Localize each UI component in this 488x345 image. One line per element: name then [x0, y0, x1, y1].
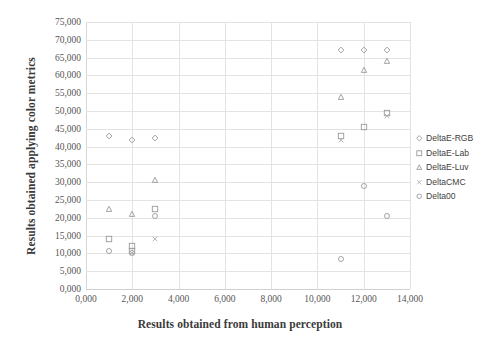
y-axis-tick-label: 20,000	[55, 213, 81, 223]
y-axis-tick-label: 55,000	[55, 88, 81, 98]
x-axis-line	[86, 289, 410, 290]
gridline-horizontal	[86, 147, 410, 148]
chart-root: Results obtained applying color metrics …	[0, 0, 488, 345]
data-point-circle	[383, 213, 390, 220]
gridline-vertical	[364, 22, 365, 289]
data-point-circle	[337, 255, 344, 262]
y-axis-tick-label: 50,000	[55, 106, 81, 116]
y-axis-tick-label: 30,000	[55, 177, 81, 187]
data-point-circle	[106, 247, 113, 254]
data-point-square	[152, 205, 159, 212]
gridline-horizontal	[86, 111, 410, 112]
triangle-marker-icon	[414, 162, 425, 173]
y-axis-tick-label: 5,000	[60, 266, 81, 276]
gridline-vertical	[271, 22, 272, 289]
data-point-circle	[152, 213, 159, 220]
data-point-triangle	[383, 58, 390, 65]
gridline-horizontal	[86, 75, 410, 76]
gridline-horizontal	[86, 22, 410, 23]
gridline-vertical	[410, 22, 411, 289]
gridline-vertical	[317, 22, 318, 289]
plot-area: 0,0005,00010,00015,00020,00025,00030,000…	[86, 22, 410, 289]
data-point-diamond	[360, 47, 367, 54]
diamond-marker-icon	[414, 133, 425, 144]
data-point-circle	[360, 182, 367, 189]
x-axis-tick-label: 14,000	[397, 294, 423, 304]
data-point-circle	[129, 250, 136, 257]
x-axis-tick-label: 2,000	[122, 294, 143, 304]
x-axis-tick-label: 6,000	[214, 294, 235, 304]
y-axis-tick-label: 25,000	[55, 195, 81, 205]
data-point-triangle	[106, 205, 113, 212]
x-axis-tick-label: 10,000	[304, 294, 330, 304]
legend-item-deltae-lab[interactable]: DeltaE-Lab	[414, 146, 473, 161]
legend: DeltaE-RGBDeltaE-LabDeltaE-LuvDeltaCMCDe…	[414, 131, 473, 204]
gridline-vertical	[225, 22, 226, 289]
data-point-cross	[383, 113, 390, 120]
data-point-diamond	[337, 47, 344, 54]
y-axis-line	[86, 22, 87, 289]
legend-item-label: DeltaE-Lab	[425, 148, 469, 158]
data-point-triangle	[152, 177, 159, 184]
x-axis-title: Results obtained from human perception	[60, 318, 420, 330]
y-axis-tick-label: 75,000	[55, 17, 81, 27]
gridline-horizontal	[86, 218, 410, 219]
legend-item-label: DeltaE-RGB	[425, 133, 473, 143]
y-axis-tick-label: 0,000	[60, 284, 81, 294]
legend-item-label: DeltaE-Luv	[425, 162, 469, 172]
legend-item-deltae-luv[interactable]: DeltaE-Luv	[414, 160, 473, 175]
gridline-horizontal	[86, 164, 410, 165]
square-marker-icon	[414, 147, 425, 158]
gridline-horizontal	[86, 200, 410, 201]
y-axis-tick-label: 70,000	[55, 35, 81, 45]
y-axis-tick-label: 40,000	[55, 142, 81, 152]
y-axis-tick-label: 15,000	[55, 231, 81, 241]
data-point-diamond	[152, 134, 159, 141]
x-axis-tick-label: 12,000	[351, 294, 377, 304]
gridline-vertical	[179, 22, 180, 289]
y-axis-tick-label: 10,000	[55, 248, 81, 258]
y-axis-tick-label: 60,000	[55, 70, 81, 80]
gridline-horizontal	[86, 236, 410, 237]
y-axis-tick-label: 45,000	[55, 124, 81, 134]
data-point-triangle	[360, 67, 367, 74]
data-point-cross	[337, 137, 344, 144]
x-axis-tick-label: 0,000	[75, 294, 96, 304]
y-axis-tick-label: 35,000	[55, 159, 81, 169]
legend-item-label: DeltaCMC	[425, 177, 466, 187]
data-point-square	[360, 124, 367, 131]
cross-marker-icon	[414, 176, 425, 187]
data-point-square	[106, 236, 113, 243]
x-axis-tick-label: 8,000	[260, 294, 281, 304]
legend-item-delta00[interactable]: Delta00	[414, 189, 473, 204]
x-axis-tick-label: 4,000	[168, 294, 189, 304]
data-point-diamond	[383, 47, 390, 54]
gridline-horizontal	[86, 93, 410, 94]
y-axis-tick-label: 65,000	[55, 53, 81, 63]
legend-item-deltacmc[interactable]: DeltaCMC	[414, 175, 473, 190]
gridline-horizontal	[86, 271, 410, 272]
y-axis-title: Results obtained applying color metrics	[25, 31, 37, 281]
gridline-horizontal	[86, 58, 410, 59]
data-point-triangle	[129, 211, 136, 218]
legend-item-label: Delta00	[425, 191, 456, 201]
data-point-cross	[152, 236, 159, 243]
circle-marker-icon	[414, 191, 425, 202]
data-point-triangle	[337, 93, 344, 100]
legend-item-deltae-rgb[interactable]: DeltaE-RGB	[414, 131, 473, 146]
data-point-diamond	[129, 137, 136, 144]
data-point-diamond	[106, 132, 113, 139]
gridline-horizontal	[86, 40, 410, 41]
